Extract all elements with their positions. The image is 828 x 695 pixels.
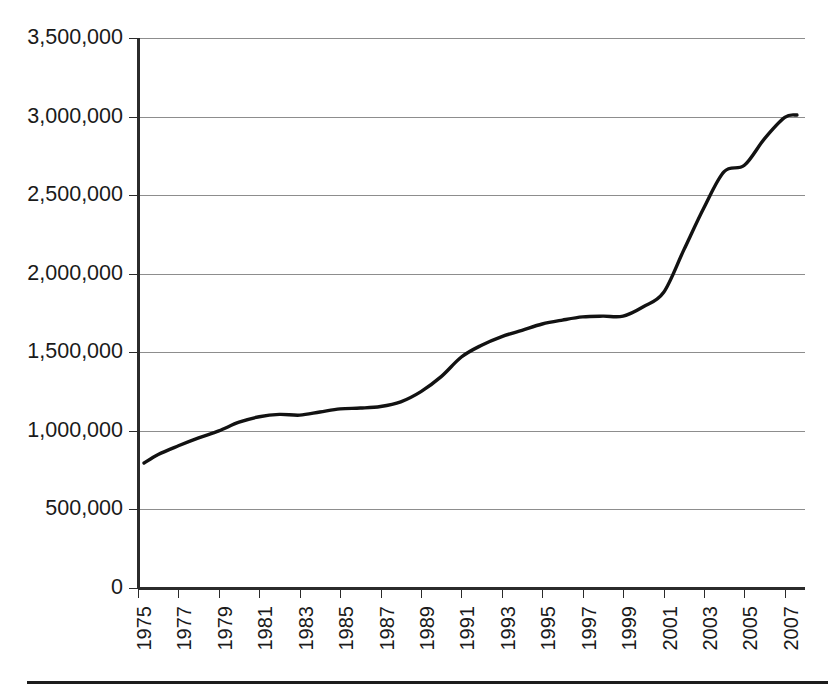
x-tick-label: 1987: [376, 606, 398, 651]
x-axis-ticks: 1975197719791981198319851987198919911993…: [133, 588, 802, 651]
y-tick-label: 1,500,000: [27, 339, 123, 363]
x-tick-label: 1977: [173, 606, 195, 651]
gridlines: [138, 39, 805, 510]
x-tick-label: 2003: [699, 606, 721, 651]
x-tick-label: 2005: [739, 606, 761, 651]
x-tick-label: 2007: [780, 606, 802, 651]
x-tick-label: 1981: [254, 606, 276, 651]
line-chart: 0500,0001,000,0001,500,0002,000,0002,500…: [0, 0, 828, 695]
y-axis-ticks: 0500,0001,000,0001,500,0002,000,0002,500…: [27, 25, 138, 599]
y-tick-label: 3,500,000: [27, 25, 123, 49]
x-tick-label: 1991: [456, 606, 478, 651]
y-tick-label: 3,000,000: [27, 104, 123, 128]
x-tick-label: 1995: [537, 606, 559, 651]
x-tick-label: 1983: [295, 606, 317, 651]
data-series-line: [144, 115, 797, 463]
x-tick-label: 1989: [416, 606, 438, 651]
x-tick-label: 1979: [214, 606, 236, 651]
y-tick-label: 2,000,000: [27, 261, 123, 285]
y-tick-label: 1,000,000: [27, 418, 123, 442]
x-tick-label: 1985: [335, 606, 357, 651]
x-tick-label: 2001: [659, 606, 681, 651]
x-tick-label: 1999: [618, 606, 640, 651]
y-tick-label: 2,500,000: [27, 182, 123, 206]
x-tick-label: 1997: [578, 606, 600, 651]
y-tick-label: 500,000: [45, 496, 123, 520]
x-tick-label: 1975: [133, 606, 155, 651]
x-tick-label: 1993: [497, 606, 519, 651]
chart-canvas: 0500,0001,000,0001,500,0002,000,0002,500…: [0, 0, 828, 695]
y-tick-label: 0: [111, 575, 123, 599]
